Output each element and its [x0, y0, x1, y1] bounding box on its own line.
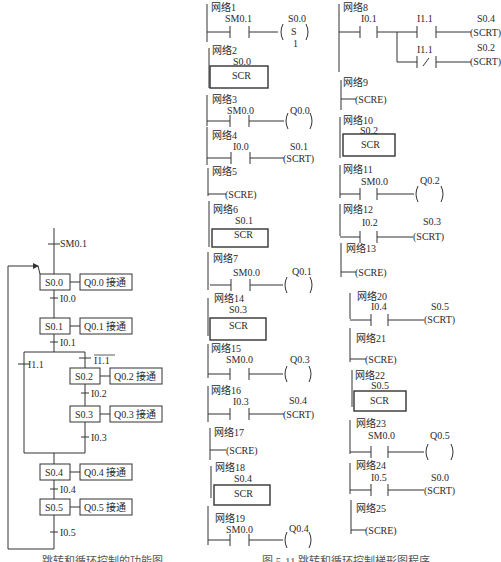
sfc-action: Q0.4 接通	[84, 466, 126, 478]
network-label: 网络11	[343, 163, 373, 175]
coil-scre: (SCRE)	[355, 94, 387, 106]
sfc-action: Q0.2 接通	[114, 370, 156, 382]
coil-address: Q0.0	[290, 105, 310, 116]
network-label: 网络5	[212, 165, 237, 177]
coil-address: Q0.5	[430, 430, 450, 441]
coil-address: S0.3	[423, 216, 441, 227]
coil-address: Q0.1	[292, 266, 312, 277]
sfc-transition-label: I0.2	[91, 388, 107, 399]
contact-address: SM0.1	[225, 13, 252, 24]
coil-scre: (SCRE)	[365, 354, 397, 366]
sfc-transition-label: I0.0	[60, 293, 76, 304]
coil-address: S0.4	[477, 13, 495, 24]
sfc-transition-label: I0.1	[60, 337, 76, 348]
network-label: 网络24	[356, 459, 386, 471]
network-label: 网络1	[211, 1, 236, 13]
network-label: 网络12	[343, 203, 373, 215]
contact-address: I0.5	[371, 472, 387, 483]
scr-address: S0.2	[360, 125, 378, 136]
sfc-transition-label: I0.3	[91, 432, 107, 443]
scr-box-label: SCR	[234, 488, 253, 499]
network-label: 网络21	[356, 332, 386, 344]
contact-address: SM0.0	[226, 354, 253, 365]
network-label: 网络3	[212, 93, 237, 105]
scr-address: S0.4	[234, 473, 252, 484]
coil-address: S0.4	[289, 395, 307, 406]
contact-address: SM0.0	[226, 524, 253, 535]
scr-address: S0.1	[235, 215, 253, 226]
sfc-step: S0.0	[45, 277, 63, 288]
contact-address: I0.2	[362, 217, 378, 228]
network-label: 网络2	[212, 44, 237, 56]
contact-address: I0.0	[233, 141, 249, 152]
sfc-step: S0.3	[75, 409, 93, 420]
contact-address: SM0.0	[368, 430, 395, 441]
sfc-action: Q0.1 接通	[84, 320, 126, 332]
coil-address: S0.0	[431, 472, 449, 483]
network-label: 网络6	[213, 203, 238, 215]
network-label: 网络14	[214, 292, 244, 304]
coil-scrt: (SCRT)	[283, 153, 314, 165]
network-label: 网络8	[343, 1, 368, 13]
coil-scre: (SCRE)	[365, 525, 397, 537]
diagram-canvas: SM0.1 S0.0 Q0.0 接通 I0.0 S0.1 Q0.1 接通 I0.…	[0, 0, 501, 562]
contact-address: SM0.0	[227, 105, 254, 116]
coil-scrt: (SCRT)	[470, 27, 501, 39]
scr-address: S0.5	[371, 380, 389, 391]
network-label: 网络23	[356, 417, 386, 429]
contact-address: I0.4	[371, 301, 387, 312]
network-label: 网络15	[211, 342, 241, 354]
network-label: 网络19	[215, 512, 245, 524]
coil-scre: (SCRE)	[225, 189, 257, 201]
coil-address: Q0.3	[290, 354, 310, 365]
contact-address: I0.3	[233, 396, 249, 407]
network-label: 网络16	[211, 384, 241, 396]
coil-address: S0.5	[431, 301, 449, 312]
sfc-transition-label: I0.5	[60, 527, 76, 538]
network-label: 网络9	[343, 76, 368, 88]
coil-scrt: (SCRT)	[413, 231, 444, 243]
contact-address: SM0.0	[361, 176, 388, 187]
sfc-transition-label-negated: I1.1	[94, 355, 110, 366]
coil-scre: (SCRE)	[226, 445, 258, 457]
coil-address: S0.0	[288, 13, 306, 24]
sfc-action: Q0.3 接通	[114, 408, 156, 420]
scr-box-label: SCR	[234, 229, 253, 240]
scr-box-label: SCR	[370, 395, 389, 406]
coil-count: 1	[293, 38, 298, 49]
scr-box-label: SCR	[229, 320, 248, 331]
sfc-action: Q0.5 接通	[84, 501, 126, 513]
scr-address: S0.3	[229, 304, 247, 315]
coil-scrt: (SCRT)	[424, 314, 455, 326]
contact-address: I1.1	[417, 13, 433, 24]
scr-address: S0.0	[233, 56, 251, 67]
coil-address: S0.2	[477, 42, 495, 53]
coil-scrt: (SCRT)	[424, 485, 455, 497]
sfc-step: S0.5	[45, 502, 63, 513]
sfc-step: S0.1	[45, 321, 63, 332]
coil-address: S0.1	[290, 141, 308, 152]
network-label: 网络13	[346, 242, 376, 254]
sfc-step: S0.4	[45, 467, 63, 478]
network-label: 网络18	[215, 461, 245, 473]
sfc-transition-label: I1.1	[28, 359, 44, 370]
sfc-action: Q0.0 接通	[84, 276, 126, 288]
coil-type: S	[291, 26, 297, 37]
sfc-transition-label: SM0.1	[60, 238, 87, 249]
coil-address: Q0.4	[289, 523, 309, 534]
coil-scrt: (SCRT)	[470, 56, 501, 68]
network-label: 网络17	[214, 426, 244, 438]
sfc-step: S0.2	[75, 371, 93, 382]
coil-scrt: (SCRT)	[283, 409, 314, 421]
coil-address: Q0.2	[420, 175, 440, 186]
contact-address: I0.1	[361, 13, 377, 24]
contact-address-nc: I1.1	[417, 44, 433, 55]
coil-scre: (SCRE)	[355, 267, 387, 279]
figure-caption-right: 图 5-11 跳转和循环控制梯形图程序	[262, 555, 430, 562]
contact-address: SM0.0	[233, 267, 260, 278]
network-label: 网络25	[356, 502, 386, 514]
network-label: 网络4	[212, 129, 237, 141]
scr-box-label: SCR	[232, 70, 251, 81]
figure-caption-left: 跳转和循环控制的功能图	[42, 555, 163, 562]
scr-box-label: SCR	[361, 139, 380, 150]
